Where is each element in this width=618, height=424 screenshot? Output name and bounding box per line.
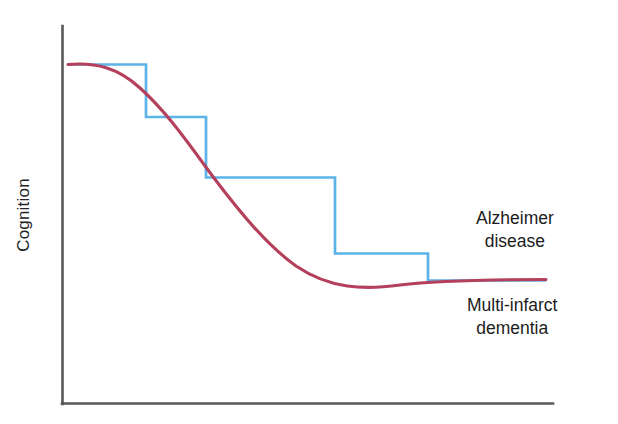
- series-alzheimer-disease: [68, 64, 546, 287]
- annotation-multi-infarct-line-1: Multi-infarct: [467, 294, 557, 317]
- annotation-multi-infarct-dementia: Multi-infarct dementia: [467, 294, 557, 340]
- annotation-multi-infarct-line-2: dementia: [467, 317, 557, 340]
- chart-figure: Cognition Alzheimer disease Multi-infarc…: [0, 0, 618, 424]
- series-multi-infarct-dementia: [68, 65, 546, 281]
- annotation-alzheimer-disease: Alzheimer disease: [476, 207, 554, 253]
- annotation-alzheimer-line-2: disease: [476, 230, 554, 253]
- annotation-alzheimer-line-1: Alzheimer: [476, 207, 554, 230]
- y-axis-title: Cognition: [14, 120, 34, 310]
